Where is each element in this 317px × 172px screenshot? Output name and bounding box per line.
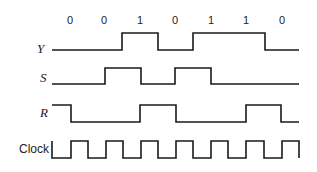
- waveform-clock: [52, 141, 299, 158]
- timing-diagram: 0 0 1 0 1 1 0 Y S R Clock: [0, 0, 317, 172]
- waveform-s: [52, 68, 299, 84]
- waveform-y: [52, 33, 299, 50]
- waveforms: [0, 0, 317, 172]
- waveform-r: [52, 105, 299, 122]
